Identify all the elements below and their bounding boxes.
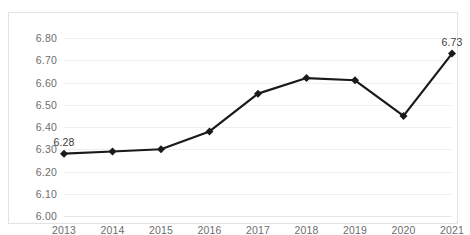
- x-axis-tick-label: 2019: [343, 224, 367, 235]
- plot-area: 6.006.106.206.306.406.506.606.706.80 201…: [64, 38, 452, 216]
- cropped-text-remnant: ___ ____ ___: [0, 0, 60, 7]
- y-axis-tick-label: 6.00: [36, 210, 57, 222]
- y-axis-tick-label: 6.70: [36, 54, 57, 66]
- x-axis-tick-label: 2016: [197, 224, 221, 235]
- line-series: [64, 38, 452, 216]
- data-point-marker: [303, 74, 311, 82]
- y-axis-tick-label: 6.60: [36, 77, 57, 89]
- y-axis-tick-label: 6.40: [36, 121, 57, 133]
- y-axis-tick-label: 6.20: [36, 166, 57, 178]
- y-axis-tick-label: 6.80: [36, 32, 57, 44]
- x-axis-tick-label: 2017: [246, 224, 270, 235]
- data-point-marker: [109, 147, 117, 155]
- x-axis-tick-label: 2018: [294, 224, 318, 235]
- data-point-marker: [157, 145, 165, 153]
- x-axis-tick-label: 2014: [100, 224, 124, 235]
- x-axis-tick-label: 2013: [52, 224, 76, 235]
- data-point-label: 6.73: [441, 36, 462, 48]
- chart-page: ___ ____ ___ 6.006.106.206.306.406.506.6…: [0, 0, 470, 235]
- y-axis-tick-label: 6.50: [36, 99, 57, 111]
- data-point-label: 6.28: [53, 136, 74, 148]
- series-line: [64, 54, 452, 154]
- gridline: [64, 216, 452, 217]
- data-point-marker: [60, 150, 68, 158]
- chart-frame: 6.006.106.206.306.406.506.606.706.80 201…: [8, 12, 458, 224]
- x-axis-tick-label: 2021: [440, 224, 464, 235]
- x-axis-tick-label: 2020: [391, 224, 415, 235]
- x-axis-tick-label: 2015: [149, 224, 173, 235]
- y-axis-tick-label: 6.10: [36, 188, 57, 200]
